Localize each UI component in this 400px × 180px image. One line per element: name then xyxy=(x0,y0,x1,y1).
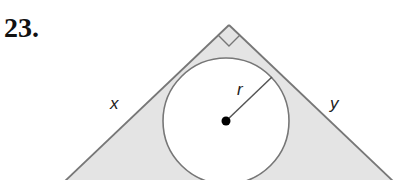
label-y: y xyxy=(329,94,340,113)
center-point xyxy=(222,117,231,126)
label-x: x xyxy=(109,94,119,113)
triangle-diagram: x y r xyxy=(0,0,400,180)
